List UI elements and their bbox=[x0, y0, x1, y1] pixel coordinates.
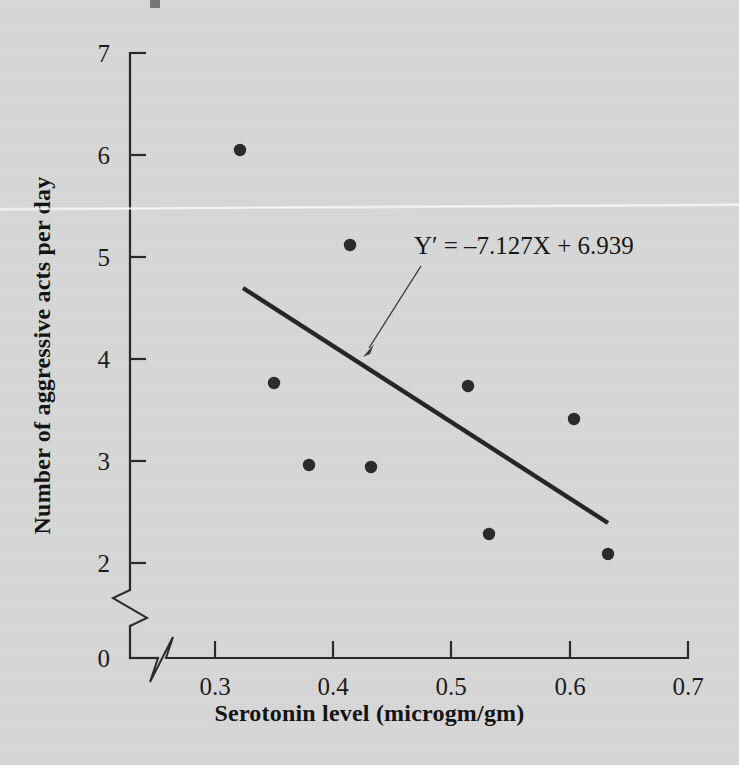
x-tick-label-0.4: 0.4 bbox=[317, 674, 348, 699]
regression-equation-label: Y′ = –7.127X + 6.939 bbox=[414, 232, 634, 260]
y-tick-label-4: 4 bbox=[60, 347, 110, 372]
y-tick-label-3: 3 bbox=[60, 449, 110, 474]
x-tick-label-0.3: 0.3 bbox=[199, 674, 230, 699]
y-axis-title: Number of aggressive acts per day bbox=[29, 126, 56, 586]
data-point bbox=[602, 548, 614, 560]
scatterplot-figure: 7 6 5 4 3 2 0 0.3 0.4 0.5 0.6 0.7 Seroto… bbox=[0, 0, 739, 765]
x-tick-label-0.5: 0.5 bbox=[435, 674, 466, 699]
regression-line bbox=[243, 288, 608, 523]
annotation-arrow-head bbox=[363, 344, 374, 357]
data-point bbox=[483, 528, 495, 540]
y-tick-label-5: 5 bbox=[60, 245, 110, 270]
annotation-pointer-line bbox=[369, 266, 421, 348]
x-axis-break bbox=[150, 637, 173, 682]
data-point bbox=[365, 461, 377, 473]
y-tick-label-7: 7 bbox=[60, 41, 110, 66]
data-point bbox=[268, 377, 280, 389]
y-axis-break bbox=[113, 590, 147, 626]
top-cropped-mark bbox=[150, 0, 160, 8]
data-point bbox=[568, 413, 580, 425]
plot-canvas bbox=[0, 0, 739, 765]
y-tick-label-2: 2 bbox=[60, 551, 110, 576]
data-point bbox=[303, 459, 315, 471]
x-tick-label-0.6: 0.6 bbox=[554, 674, 585, 699]
y-tick-label-0: 0 bbox=[60, 646, 110, 671]
x-axis-title: Serotonin level (microgm/gm) bbox=[0, 700, 739, 727]
y-tick-label-6: 6 bbox=[60, 143, 110, 168]
data-point bbox=[234, 144, 246, 156]
data-point bbox=[344, 239, 356, 251]
x-tick-label-0.7: 0.7 bbox=[672, 674, 703, 699]
data-point bbox=[462, 380, 474, 392]
